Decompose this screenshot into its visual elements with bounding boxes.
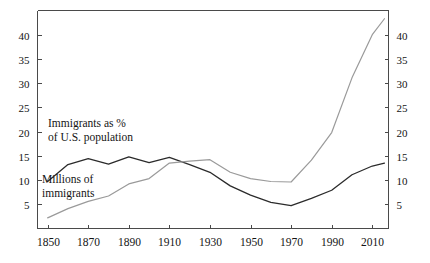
y-tick-label-left: 20: [19, 127, 31, 139]
annotation-pct-line1: Immigrants as %: [48, 117, 126, 130]
annotation-immigrants-percent: Immigrants as % of U.S. population: [48, 117, 133, 144]
annotation-millions-immigrants: Millions of immigrants: [42, 173, 95, 200]
y-tick-label-left: 25: [19, 102, 31, 114]
x-tick-label: 1850: [37, 236, 60, 248]
chart-canvas: 551010151520202525303035354040 185018701…: [0, 0, 430, 263]
x-tick-label: 1930: [199, 236, 222, 248]
y-tick-label-right: 40: [397, 30, 409, 42]
y-tick-label-left: 15: [19, 151, 31, 163]
x-tick-label: 1910: [158, 236, 181, 248]
annotation-millions-line1: Millions of: [42, 173, 94, 185]
x-tick-label: 1870: [77, 236, 100, 248]
x-tick-label: 1970: [280, 236, 303, 248]
y-tick-label-right: 35: [397, 54, 409, 66]
y-tick-label-left: 40: [19, 30, 31, 42]
y-tick-label-right: 30: [397, 78, 409, 90]
immigration-line-chart: 551010151520202525303035354040 185018701…: [0, 0, 430, 263]
y-tick-label-right: 15: [397, 151, 409, 163]
annotation-millions-line2: immigrants: [42, 187, 95, 200]
x-tick-label: 2010: [361, 236, 384, 248]
y-tick-label-left: 35: [19, 54, 31, 66]
x-tick-label: 1950: [240, 236, 263, 248]
y-tick-label-right: 20: [397, 127, 409, 139]
y-tick-label-left: 30: [19, 78, 31, 90]
x-tick-label: 1890: [118, 236, 141, 248]
y-tick-label-right: 10: [397, 175, 409, 187]
x-tick-label: 1990: [321, 236, 344, 248]
y-tick-label-left: 10: [19, 175, 31, 187]
x-axis: 185018701890191019301950197019902010: [37, 225, 384, 248]
y-tick-label-right: 5: [397, 199, 403, 211]
y-tick-label-right: 25: [397, 102, 409, 114]
y-tick-label-left: 5: [24, 199, 30, 211]
annotation-pct-line2: of U.S. population: [48, 131, 133, 144]
